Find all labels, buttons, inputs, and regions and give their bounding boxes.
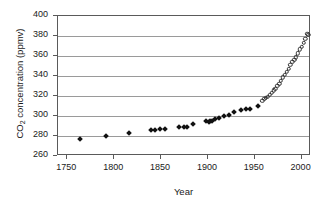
x-tick-1850 bbox=[160, 155, 161, 159]
x-tick-1800 bbox=[113, 155, 114, 159]
data-point-s0-23 bbox=[255, 103, 261, 109]
x-tick-1900 bbox=[207, 155, 208, 159]
gridline-300 bbox=[58, 116, 309, 117]
data-point-s0-6 bbox=[162, 126, 168, 132]
y-axis-title-subscript: 2 bbox=[19, 120, 26, 124]
gridline-360 bbox=[58, 56, 309, 57]
y-tick-label-300: 300 bbox=[14, 110, 48, 119]
gridline-320 bbox=[58, 96, 309, 97]
y-tick-400 bbox=[53, 15, 57, 16]
data-point-s0-19 bbox=[231, 109, 237, 115]
y-tick-label-400: 400 bbox=[14, 10, 48, 19]
y-tick-260 bbox=[53, 155, 57, 156]
y-tick-360 bbox=[53, 55, 57, 56]
data-point-s1-23 bbox=[303, 36, 307, 40]
y-tick-label-340: 340 bbox=[14, 70, 48, 79]
data-point-s0-22 bbox=[247, 106, 253, 112]
y-tick-label-360: 360 bbox=[14, 50, 48, 59]
data-point-s1-22 bbox=[301, 41, 305, 45]
co2-concentration-chart: CO2 concentration (ppmv) Year 2602803003… bbox=[0, 0, 323, 205]
data-point-s1-18 bbox=[294, 55, 298, 59]
data-point-s1-14 bbox=[286, 67, 290, 71]
plot-area bbox=[57, 15, 310, 155]
x-tick-label-1900: 1900 bbox=[187, 163, 227, 172]
y-tick-label-380: 380 bbox=[14, 30, 48, 39]
x-axis-title: Year bbox=[57, 186, 310, 197]
y-tick-300 bbox=[53, 115, 57, 116]
data-point-s0-1 bbox=[103, 133, 109, 139]
x-tick-label-1950: 1950 bbox=[234, 163, 274, 172]
data-point-s1-21 bbox=[299, 44, 303, 48]
data-point-s0-9 bbox=[184, 124, 190, 130]
data-point-s1-25 bbox=[306, 33, 310, 37]
data-point-s0-10 bbox=[190, 122, 196, 128]
data-point-s0-0 bbox=[77, 136, 83, 142]
y-tick-label-260: 260 bbox=[14, 150, 48, 159]
gridline-380 bbox=[58, 36, 309, 37]
x-tick-label-1750: 1750 bbox=[46, 163, 86, 172]
x-tick-2000 bbox=[301, 155, 302, 159]
data-point-s1-19 bbox=[296, 51, 300, 55]
y-tick-280 bbox=[53, 135, 57, 136]
gridline-340 bbox=[58, 76, 309, 77]
x-tick-label-2000: 2000 bbox=[281, 163, 321, 172]
gridline-280 bbox=[58, 136, 309, 137]
x-tick-label-1800: 1800 bbox=[93, 163, 133, 172]
y-tick-label-280: 280 bbox=[14, 130, 48, 139]
y-tick-380 bbox=[53, 35, 57, 36]
y-tick-320 bbox=[53, 95, 57, 96]
x-tick-1950 bbox=[254, 155, 255, 159]
y-tick-label-320: 320 bbox=[14, 90, 48, 99]
y-tick-340 bbox=[53, 75, 57, 76]
x-tick-label-1850: 1850 bbox=[140, 163, 180, 172]
x-tick-1750 bbox=[66, 155, 67, 159]
